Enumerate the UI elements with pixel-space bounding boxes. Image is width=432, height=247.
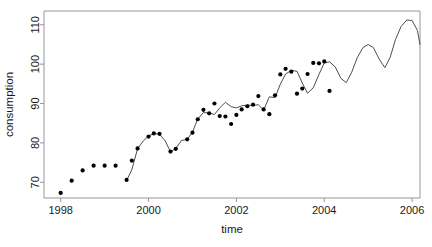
data-point — [130, 159, 134, 163]
x-tick-label: 2006 — [400, 204, 424, 216]
data-point — [322, 59, 326, 63]
data-point — [234, 113, 238, 117]
data-point — [59, 191, 63, 195]
data-point — [81, 168, 85, 172]
data-point — [174, 147, 178, 151]
data-point — [152, 131, 156, 135]
data-point — [267, 112, 271, 116]
data-point — [114, 164, 118, 168]
data-point — [245, 104, 249, 108]
data-point — [103, 164, 107, 168]
data-point — [146, 134, 150, 138]
data-point — [283, 67, 287, 71]
data-point — [305, 72, 309, 76]
x-tick-label: 2000 — [136, 204, 160, 216]
data-point — [229, 122, 233, 126]
data-point — [327, 89, 331, 93]
data-point — [300, 86, 304, 90]
x-tick-label: 1998 — [48, 204, 72, 216]
data-point — [124, 178, 128, 182]
data-point — [289, 70, 293, 74]
chart-container: 70809010011019982000200220042006 timecon… — [0, 0, 432, 247]
x-tick-label: 2002 — [224, 204, 248, 216]
data-point — [157, 132, 161, 136]
time-series-plot: 70809010011019982000200220042006 timecon… — [0, 0, 432, 247]
data-point — [201, 108, 205, 112]
x-axis-title: time — [221, 223, 243, 235]
data-point — [256, 94, 260, 98]
data-point — [218, 114, 222, 118]
data-point — [223, 114, 227, 118]
data-point — [240, 107, 244, 111]
y-tick-label: 80 — [29, 137, 41, 149]
y-axis-title: consumption — [3, 72, 15, 137]
data-point — [251, 103, 255, 107]
x-tick-label: 2004 — [312, 204, 336, 216]
data-point — [207, 111, 211, 115]
data-point — [295, 92, 299, 96]
y-tick-label: 70 — [29, 176, 41, 188]
data-point — [262, 107, 266, 111]
data-point — [190, 131, 194, 135]
y-tick-label: 90 — [29, 97, 41, 109]
data-point — [70, 179, 74, 183]
y-tick-label: 110 — [29, 16, 41, 34]
y-tick-label: 100 — [29, 55, 41, 73]
data-point — [278, 72, 282, 76]
data-point — [135, 146, 139, 150]
data-point — [168, 149, 172, 153]
data-point — [212, 101, 216, 105]
data-point — [273, 93, 277, 97]
data-point — [317, 61, 321, 65]
data-point — [185, 137, 189, 141]
data-point — [196, 117, 200, 121]
data-point — [92, 164, 96, 168]
data-point — [311, 61, 315, 65]
